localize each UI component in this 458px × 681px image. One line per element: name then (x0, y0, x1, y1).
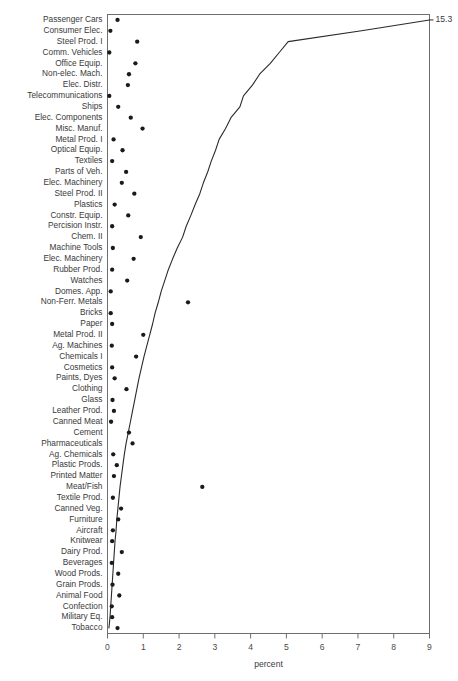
data-point (115, 626, 119, 630)
category-label: Consumer Elec. (43, 25, 102, 35)
category-label: Misc. Manuf. (55, 123, 102, 133)
category-label: Domes. App. (55, 286, 103, 296)
category-label: Elec. Components (35, 112, 103, 122)
category-label: Comm. Vehicles (43, 47, 103, 57)
category-label: Aircraft (76, 525, 103, 535)
category-label: Bricks (80, 307, 103, 317)
data-point (133, 61, 137, 65)
category-label: Canned Veg. (55, 503, 103, 513)
category-label: Steel Prod. II (55, 188, 103, 198)
category-label: Machine Tools (50, 242, 103, 252)
category-label: Ag. Machines (52, 340, 102, 350)
data-point (107, 94, 111, 98)
data-point (111, 246, 115, 250)
category-label: Optical Equip. (51, 144, 103, 154)
category-label: Glass (81, 394, 102, 404)
category-label: Metal Prod. I (55, 134, 102, 144)
category-label: Plastics (74, 199, 103, 209)
category-label: Cosmetics (64, 362, 103, 372)
x-axis-tick-label: 3 (212, 642, 217, 652)
data-point (119, 506, 123, 510)
category-label: Grain Prods. (56, 579, 103, 589)
data-point (124, 387, 128, 391)
data-point (126, 213, 130, 217)
category-label: Military Eq. (61, 611, 102, 621)
data-point (109, 289, 113, 293)
category-label: Plastic Prods. (52, 459, 103, 469)
category-label: Parts of Veh. (55, 166, 103, 176)
category-label: Beverages (63, 557, 103, 567)
data-point (111, 137, 115, 141)
data-point (110, 398, 114, 402)
data-point (110, 561, 114, 565)
dot-group (107, 18, 204, 630)
data-point (124, 170, 128, 174)
category-label: Textiles (75, 155, 103, 165)
data-point (112, 409, 116, 413)
data-point (120, 550, 124, 554)
category-label: Metal Prod. II (53, 329, 102, 339)
category-label: Elec. Machinery (43, 253, 103, 263)
category-label: Chemicals I (59, 351, 102, 361)
x-axis-tick-label: 1 (141, 642, 146, 652)
category-label: Cement (73, 427, 103, 437)
data-point (110, 268, 114, 272)
x-axis-tick-label: 0 (105, 642, 110, 652)
data-point (108, 29, 112, 33)
data-point (113, 376, 117, 380)
x-axis-title: percent (254, 659, 283, 669)
category-label: Paper (80, 318, 102, 328)
category-label: Confection (63, 601, 103, 611)
annotation: 15.3 (430, 14, 453, 24)
category-label: Non-elec. Mach. (42, 68, 102, 78)
data-point (110, 322, 114, 326)
category-label: Non-Ferr. Metals (41, 296, 103, 306)
cumulative-line (109, 20, 430, 628)
category-label: Office Equip. (55, 58, 102, 68)
category-label: Constr. Equip. (50, 210, 102, 220)
data-point (140, 126, 144, 130)
data-point (109, 311, 113, 315)
data-point (112, 474, 116, 478)
data-point (110, 582, 114, 586)
category-label: Textile Prod. (57, 492, 103, 502)
data-point (115, 18, 119, 22)
data-point (111, 452, 115, 456)
category-label: Leather Prod. (52, 405, 102, 415)
data-point (127, 430, 131, 434)
category-label: Printed Matter (50, 470, 102, 480)
x-axis-tick-label: 9 (427, 642, 432, 652)
category-label: Paints, Dyes (56, 372, 103, 382)
category-label: Clothing (72, 383, 103, 393)
category-label: Chem. II (71, 231, 102, 241)
x-axis-tick-label: 2 (177, 642, 182, 652)
data-point (186, 300, 190, 304)
x-axis-tick-label: 7 (356, 642, 361, 652)
data-point (130, 441, 134, 445)
data-point (125, 278, 129, 282)
data-point (116, 105, 120, 109)
category-label: Percision Instr. (48, 220, 102, 230)
category-label: Tobacco (72, 622, 103, 632)
data-point (113, 202, 117, 206)
data-point (120, 181, 124, 185)
category-label: Steel Prod. I (57, 36, 103, 46)
category-label: Pharmaceuticals (41, 438, 102, 448)
category-label: Telecommunications (27, 90, 102, 100)
category-label: Rubber Prod. (53, 264, 102, 274)
x-axis-tick-label: 4 (248, 642, 253, 652)
data-point (132, 192, 136, 196)
data-point (141, 333, 145, 337)
category-label: Elec. Machinery (43, 177, 103, 187)
category-label: Canned Meat (53, 416, 104, 426)
data-point (131, 257, 135, 261)
data-point (110, 604, 114, 608)
category-label: Ships (82, 101, 103, 111)
data-point (110, 365, 114, 369)
category-label: Wood Prods. (55, 568, 103, 578)
category-label: Ag. Chemicals (49, 449, 103, 459)
data-point (110, 344, 114, 348)
data-point (110, 539, 114, 543)
category-label: Meat/Fish (66, 481, 103, 491)
category-label: Elec. Distr. (63, 79, 103, 89)
